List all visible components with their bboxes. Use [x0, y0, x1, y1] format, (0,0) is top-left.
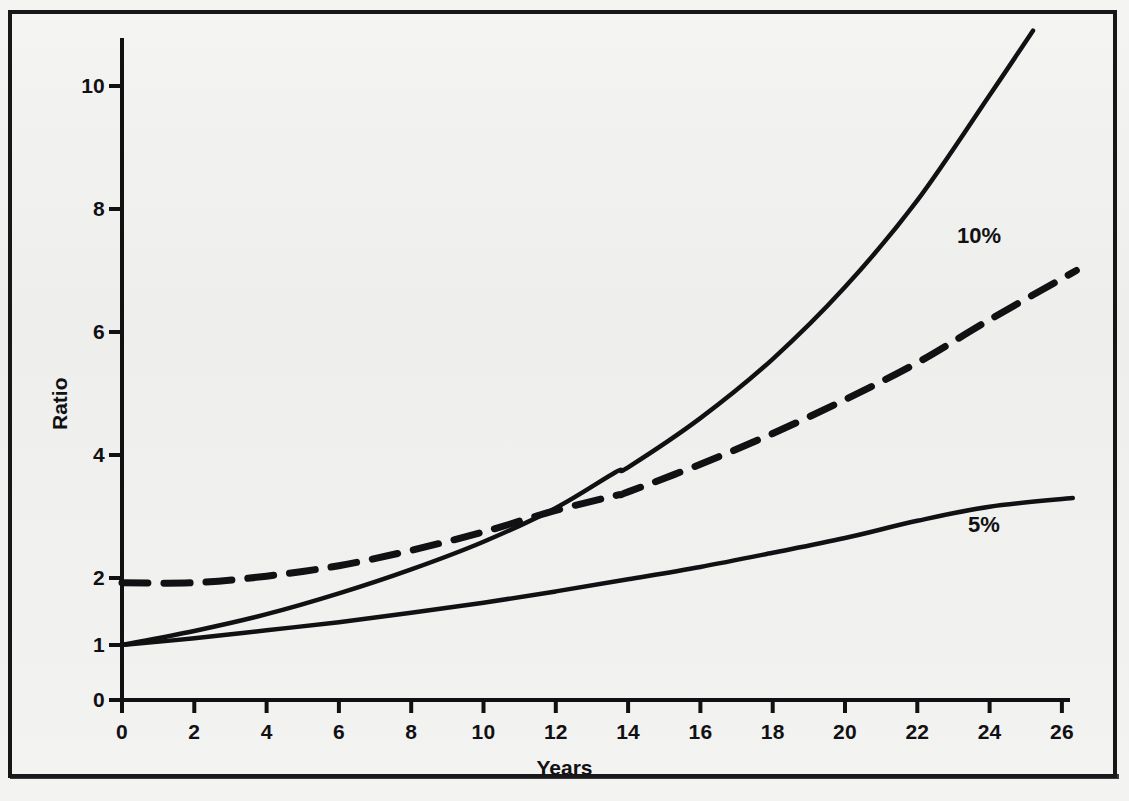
series-line-10pct	[122, 31, 1033, 645]
x-tick-label: 6	[333, 720, 345, 744]
y-tick-label: 4	[60, 443, 105, 467]
x-axis-title: Years	[0, 756, 1129, 780]
x-tick-label: 12	[544, 720, 568, 744]
figure-page: 01246810 02468101214161820222426 10%5% R…	[0, 0, 1129, 801]
x-tick-label: 0	[116, 720, 128, 744]
x-tick-label: 8	[405, 720, 417, 744]
y-axis-title: Ratio	[48, 378, 72, 431]
series-line-dashed	[122, 271, 1076, 584]
x-tick-label: 10	[472, 720, 496, 744]
x-tick-label: 14	[616, 720, 640, 744]
x-tick-label: 18	[761, 720, 785, 744]
x-tick-label: 16	[689, 720, 713, 744]
series-annotation-5pct: 5%	[968, 512, 1000, 538]
data-series-group	[122, 31, 1076, 645]
series-annotation-10pct: 10%	[957, 223, 1001, 249]
x-tick-label: 20	[833, 720, 857, 744]
y-tick-label: 0	[60, 688, 105, 712]
x-tick-label: 26	[1050, 720, 1074, 744]
y-tick-label: 10	[60, 74, 105, 98]
chart-plot-area	[0, 0, 1129, 801]
axes	[109, 38, 1070, 713]
x-tick-label: 4	[261, 720, 273, 744]
x-tick-label: 22	[905, 720, 929, 744]
y-tick-label: 6	[60, 320, 105, 344]
x-tick-label: 24	[978, 720, 1002, 744]
series-line-5pct	[122, 498, 1073, 645]
y-tick-label: 2	[60, 566, 105, 590]
x-tick-label: 2	[188, 720, 200, 744]
y-tick-label: 1	[60, 633, 105, 657]
y-tick-label: 8	[60, 197, 105, 221]
